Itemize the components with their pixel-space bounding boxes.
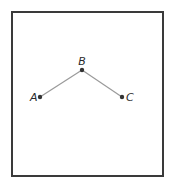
point-a-label: A — [29, 91, 38, 104]
point-c-dot-icon — [120, 95, 124, 99]
point-c-label: C — [126, 91, 134, 104]
point-b-label: B — [78, 55, 86, 68]
path-diagram: A B C — [0, 0, 175, 182]
point-b-dot-icon — [80, 68, 84, 72]
edge-a-b — [40, 70, 82, 97]
edge-b-c — [82, 70, 122, 97]
point-a-dot-icon — [38, 95, 42, 99]
